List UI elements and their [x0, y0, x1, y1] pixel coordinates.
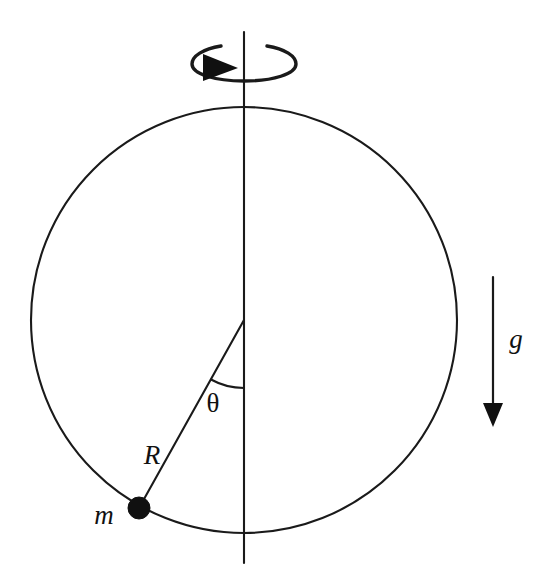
rotation-arrowhead-icon — [203, 54, 238, 81]
mass-label: m — [94, 500, 114, 530]
physics-diagram-figure: θ R m g — [0, 0, 556, 579]
mass-point-dot — [128, 497, 150, 519]
gravity-label: g — [509, 324, 523, 354]
radius-label: R — [143, 440, 161, 470]
theta-angle-arc — [211, 380, 244, 389]
radius-line — [139, 320, 244, 508]
down-arrow-icon — [483, 403, 503, 427]
diagram-canvas: θ R m g — [0, 0, 556, 579]
theta-label: θ — [207, 388, 220, 418]
